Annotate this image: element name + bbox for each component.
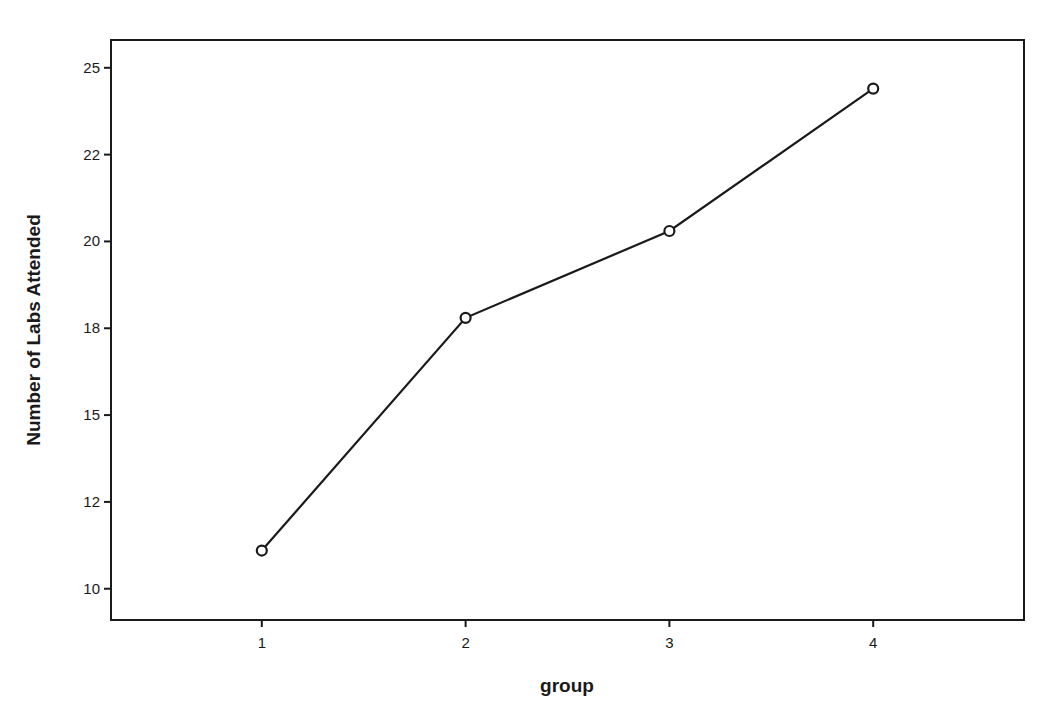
x-axis-title: group bbox=[540, 675, 594, 696]
data-point-marker bbox=[664, 226, 674, 236]
y-tick-label: 12 bbox=[83, 493, 100, 510]
y-tick-label: 20 bbox=[83, 232, 100, 249]
plot-frame bbox=[111, 40, 1024, 620]
data-point-marker bbox=[461, 313, 471, 323]
y-tick-label: 15 bbox=[83, 406, 100, 423]
y-tick-label: 22 bbox=[83, 146, 100, 163]
y-axis: 10121518202225 bbox=[83, 59, 111, 597]
y-tick-label: 18 bbox=[83, 319, 100, 336]
y-tick-label: 10 bbox=[83, 580, 100, 597]
x-axis: 1234 bbox=[258, 620, 878, 651]
x-tick-label: 3 bbox=[665, 634, 673, 651]
data-point-marker bbox=[868, 84, 878, 94]
y-tick-label: 25 bbox=[83, 59, 100, 76]
data-point-marker bbox=[257, 546, 267, 556]
x-tick-label: 1 bbox=[258, 634, 266, 651]
x-tick-label: 2 bbox=[461, 634, 469, 651]
line-chart: 10121518202225 1234 Number of Labs Atten… bbox=[0, 0, 1062, 728]
y-axis-title: Number of Labs Attended bbox=[23, 214, 44, 446]
x-tick-label: 4 bbox=[869, 634, 877, 651]
